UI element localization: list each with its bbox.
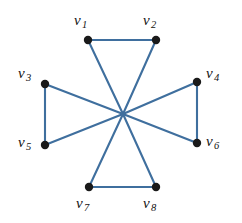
vertex-label-v6: v6 [206, 134, 219, 152]
edge-v2-v5 [45, 40, 156, 145]
vertex-v1 [84, 36, 92, 44]
vertex-v6 [193, 139, 201, 147]
vertex-label-v5: v5 [18, 135, 31, 153]
vertex-label-symbol: v [74, 12, 81, 28]
vertex-v4 [193, 78, 201, 86]
vertex-label-v4: v4 [206, 66, 219, 84]
graph-canvas [0, 0, 242, 223]
vertex-v2 [152, 36, 160, 44]
vertex-label-symbol: v [18, 134, 25, 150]
edge-v1-v6 [88, 40, 197, 143]
vertex-label-symbol: v [76, 195, 83, 211]
vertex-label-index: 2 [151, 19, 156, 30]
vertex-label-symbol: v [143, 12, 150, 28]
vertex-label-symbol: v [206, 65, 213, 81]
vertex-label-v1: v1 [74, 13, 87, 31]
graph-figure: v1v2v3v4v5v6v7v8 [0, 0, 242, 223]
vertex-v5 [41, 141, 49, 149]
vertex-label-v8: v8 [143, 196, 156, 214]
edge-v4-v7 [89, 82, 197, 187]
vertex-label-symbol: v [143, 195, 150, 211]
vertex-v7 [85, 183, 93, 191]
edge-v3-v8 [45, 84, 156, 187]
vertex-label-v2: v2 [143, 13, 156, 31]
vertex-label-index: 6 [214, 140, 219, 151]
vertex-label-index: 1 [82, 19, 87, 30]
edge-layer [45, 40, 197, 187]
vertex-label-index: 8 [151, 202, 156, 213]
vertex-label-index: 4 [214, 72, 219, 83]
vertex-label-index: 5 [26, 141, 31, 152]
vertex-label-symbol: v [18, 65, 25, 81]
vertex-v3 [41, 80, 49, 88]
vertex-label-v3: v3 [18, 66, 31, 84]
vertex-label-index: 3 [26, 72, 31, 83]
vertex-label-symbol: v [206, 133, 213, 149]
vertex-v8 [152, 183, 160, 191]
vertex-label-v7: v7 [76, 196, 89, 214]
vertex-label-index: 7 [84, 202, 89, 213]
